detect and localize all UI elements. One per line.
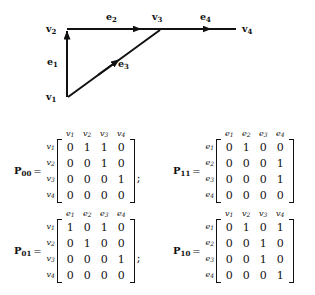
matrix-cell: 1 — [272, 171, 289, 187]
bracket-piece — [289, 155, 294, 171]
header-subscript: 3 — [264, 211, 268, 218]
node-label-v3: v3 — [152, 12, 162, 23]
matrix-cell: 0 — [79, 251, 96, 267]
matrix-row-header: v1 — [45, 219, 57, 235]
matrix-row-header: v3 — [45, 251, 57, 267]
matrix-row: v10110 — [45, 139, 135, 155]
matrix-column-header-row: e1e2e3e4 — [204, 128, 294, 139]
matrix-bracket-spacer — [130, 128, 135, 139]
matrix-equals-sign: = — [33, 154, 41, 177]
matrix-column-header: e4 — [272, 128, 289, 139]
matrix-name-subscript: 11 — [181, 169, 191, 178]
header-subscript: 1 — [51, 145, 55, 152]
header-subscript: 3 — [264, 131, 268, 138]
header-subscript: 2 — [247, 211, 251, 218]
header-subscript: 4 — [51, 193, 55, 200]
matrix-cell: 0 — [62, 139, 79, 155]
header-subscript: 1 — [230, 211, 234, 218]
matrix-bracket-spacer — [130, 208, 135, 219]
edge-e3-arrowhead — [98, 62, 116, 75]
matrix-cell: 0 — [113, 187, 130, 203]
matrix-cell: 0 — [272, 139, 289, 155]
node-label-v4: v4 — [242, 24, 252, 35]
matrix-name-subscript: 10 — [181, 249, 191, 258]
matrix-column-header: v4 — [113, 128, 130, 139]
matrix-corner-cell — [204, 128, 216, 139]
matrix-name-base: P — [14, 245, 22, 256]
header-subscript: 1 — [71, 131, 75, 138]
matrix-cell: 0 — [238, 267, 255, 283]
matrix-row-header: v3 — [45, 171, 57, 187]
matrix-cell: 0 — [238, 187, 255, 203]
matrix-corner-cell — [45, 208, 57, 219]
matrix-equals-sign: = — [33, 234, 41, 257]
matrix-corner-cell — [45, 128, 57, 139]
bracket-piece — [289, 171, 294, 187]
edge-label-e2: e2 — [106, 12, 117, 23]
matrix-cell: 0 — [79, 155, 96, 171]
header-subscript: 3 — [51, 177, 55, 184]
matrix-cell: 0 — [62, 187, 79, 203]
matrix-corner-cell — [204, 208, 216, 219]
header-subscript: 4 — [122, 211, 126, 218]
matrix-right-bracket-segment — [130, 187, 135, 203]
matrix-cell: 0 — [79, 267, 96, 283]
matrix-cell: 0 — [113, 155, 130, 171]
bracket-piece — [130, 187, 135, 203]
matrix-cell: 0 — [79, 219, 96, 235]
matrix-cell: 1 — [238, 219, 255, 235]
matrix-right-bracket-segment — [289, 251, 294, 267]
bracket-piece — [289, 267, 294, 283]
header-subscript: 3 — [210, 177, 214, 184]
matrix-cell: 1 — [96, 219, 113, 235]
matrix-cell: 0 — [113, 235, 130, 251]
matrix-column-header-row: v1v2v3v4 — [204, 208, 294, 219]
matrix-table-P10: v1v2v3v4e10101e20010e30010e40001 — [204, 208, 294, 283]
matrix-table-P00: v1v2v3v4v10110v20010v30001v40000 — [45, 128, 135, 203]
matrix-name-P01: P01 — [14, 233, 31, 258]
matrix-cell: 1 — [96, 139, 113, 155]
header-subscript: 3 — [105, 211, 109, 218]
matrix-column-header: e4 — [113, 208, 130, 219]
matrix-cell: 0 — [62, 267, 79, 283]
matrix-cell: 0 — [79, 171, 96, 187]
matrix-right-bracket-segment — [289, 235, 294, 251]
header-subscript: 3 — [210, 257, 214, 264]
matrix-row-header: e3 — [204, 171, 216, 187]
matrix-row: v40000 — [45, 267, 135, 283]
matrix-row-header: e2 — [204, 235, 216, 251]
bracket-piece — [289, 251, 294, 267]
matrix-row-header: e1 — [204, 139, 216, 155]
header-subscript: 4 — [210, 273, 214, 280]
matrix-row-header: v1 — [45, 139, 57, 155]
header-subscript: 4 — [51, 273, 55, 280]
edge-label-e4: e4 — [200, 12, 211, 23]
matrix-cell: 1 — [238, 139, 255, 155]
matrix-cell: 0 — [272, 235, 289, 251]
matrix-column-header: v1 — [221, 208, 238, 219]
matrix-column-header-row: e1e2e3e4 — [45, 208, 135, 219]
matrix-row: v30001 — [45, 171, 135, 187]
header-subscript: 2 — [88, 211, 92, 218]
matrix-row: v30001 — [45, 251, 135, 267]
matrix-name-base: P — [14, 165, 22, 176]
bracket-piece — [289, 187, 294, 203]
matrix-row: e40001 — [204, 267, 294, 283]
header-subscript: 2 — [247, 131, 251, 138]
matrix-cell: 0 — [221, 187, 238, 203]
matrix-cell: 1 — [272, 155, 289, 171]
bracket-piece — [130, 267, 135, 283]
matrix-cell: 0 — [255, 219, 272, 235]
matrix-cell: 0 — [62, 235, 79, 251]
matrix-column-header: v2 — [79, 128, 96, 139]
matrix-cell: 1 — [272, 267, 289, 283]
matrix-cell: 0 — [221, 235, 238, 251]
matrix-cell: 0 — [96, 171, 113, 187]
header-subscript: 1 — [230, 131, 234, 138]
matrix-cell: 0 — [272, 187, 289, 203]
matrix-cell: 0 — [62, 251, 79, 267]
matrix-column-header: v3 — [255, 208, 272, 219]
matrix-column-header: v3 — [96, 128, 113, 139]
matrix-cell: 0 — [96, 187, 113, 203]
matrix-group-P01: P01=e1e2e3e4v11010v20100v30001v40000; — [14, 208, 140, 283]
